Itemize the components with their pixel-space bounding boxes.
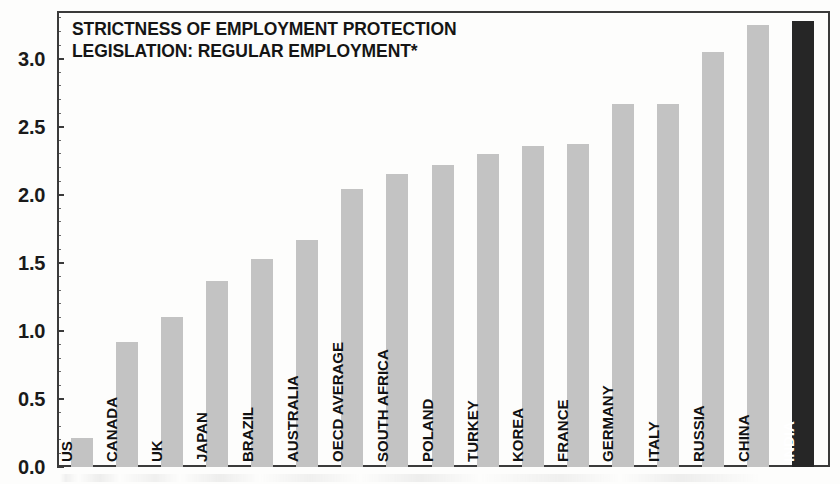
bar-turkey: TURKEY xyxy=(477,154,499,467)
bar-label: CANADA xyxy=(104,397,119,462)
bar-label: RUSSIA xyxy=(691,405,706,462)
scan-artifact xyxy=(60,474,760,482)
bar-china: CHINA xyxy=(747,25,769,467)
chart-figure: 0.00.51.01.52.02.53.0 STRICTNESS OF EMPL… xyxy=(0,0,840,484)
bar-south-africa: SOUTH AFRICA xyxy=(386,174,408,467)
y-tick-label: 3.0 xyxy=(18,47,45,70)
bar-germany: GERMANY xyxy=(612,104,634,467)
bar-label: FRANCE xyxy=(555,400,570,463)
y-tick-label: 2.5 xyxy=(18,115,45,138)
bar-label: US xyxy=(59,441,74,462)
bar-label: CHINA xyxy=(736,415,751,463)
y-tick-label: 1.5 xyxy=(18,251,45,274)
bar-label: AUSTRALIA xyxy=(285,375,300,462)
bar-label: TURKEY xyxy=(465,400,480,462)
bar-italy: ITALY xyxy=(657,104,679,467)
bar-australia: AUSTRALIA xyxy=(296,240,318,467)
y-tick-label: 1.0 xyxy=(18,319,45,342)
bar-label: OECD AVERAGE xyxy=(330,342,345,462)
y-tick-label: 2.0 xyxy=(18,183,45,206)
y-tick-label: 0.5 xyxy=(18,387,45,410)
bar-us: US xyxy=(71,438,93,467)
bar-russia: RUSSIA xyxy=(702,52,724,467)
bar-france: FRANCE xyxy=(567,144,589,467)
bar-label: GERMANY xyxy=(600,385,615,462)
y-axis: 0.00.51.01.52.02.53.0 xyxy=(0,0,57,484)
bar-brazil: BRAZIL xyxy=(251,259,273,467)
bar-label: BRAZIL xyxy=(240,407,255,462)
bar-india: INDIA xyxy=(792,21,814,467)
bars-layer: USCANADAUKJAPANBRAZILAUSTRALIAOECD AVERA… xyxy=(57,11,830,467)
bar-label: SOUTH AFRICA xyxy=(375,349,390,462)
bar-poland: POLAND xyxy=(432,165,454,467)
bar-label: POLAND xyxy=(420,399,435,462)
bar-label: INDIA xyxy=(781,421,796,462)
bar-uk: UK xyxy=(161,317,183,467)
bar-label: JAPAN xyxy=(194,412,209,462)
bar-canada: CANADA xyxy=(116,342,138,467)
bar-label: KOREA xyxy=(510,408,525,462)
bar-oecd-average: OECD AVERAGE xyxy=(341,189,363,467)
bar-korea: KOREA xyxy=(522,146,544,467)
bar-japan: JAPAN xyxy=(206,281,228,467)
y-tick-label: 0.0 xyxy=(18,456,45,479)
bar-label: UK xyxy=(149,440,164,462)
bar-label: ITALY xyxy=(646,421,661,462)
